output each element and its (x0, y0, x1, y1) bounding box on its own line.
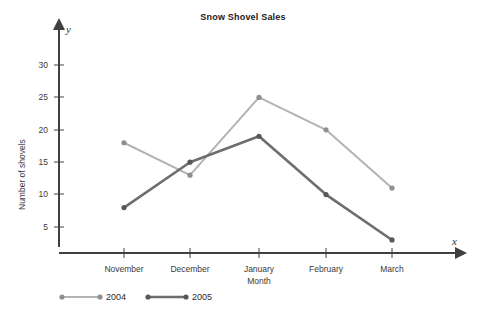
data-point-2005-December[interactable] (187, 160, 192, 165)
x-tick-label-november: November (104, 264, 143, 274)
x-axis-letter: x (451, 235, 457, 247)
data-point-2004-February[interactable] (323, 127, 328, 132)
data-point-2005-January[interactable] (256, 134, 261, 139)
line-chart: y x 30 25 20 15 10 5 Number of shovels (0, 0, 486, 315)
data-point-2005-November[interactable] (121, 205, 126, 210)
x-axis-title: Month (247, 276, 271, 286)
x-tick-label-december: December (170, 264, 209, 274)
data-point-2004-March[interactable] (389, 186, 394, 191)
legend-label-2004: 2004 (106, 292, 126, 302)
y-tick-label: 25 (39, 92, 49, 102)
legend-marker-2005 (145, 294, 150, 299)
y-axis-title: Number of shovels (17, 139, 27, 210)
y-tick-label: 30 (39, 60, 49, 70)
x-tick-label-february: February (309, 264, 344, 274)
data-point-2005-March[interactable] (389, 237, 394, 242)
data-point-2005-February[interactable] (323, 192, 328, 197)
x-tick-label-march: March (380, 264, 404, 274)
y-tick-label: 5 (43, 222, 48, 232)
data-point-2004-December[interactable] (187, 173, 192, 178)
y-axis-letter: y (65, 23, 71, 35)
legend-marker-2004 (97, 294, 102, 299)
data-point-2004-November[interactable] (121, 140, 126, 145)
data-point-2004-January[interactable] (256, 95, 261, 100)
y-tick-group: 30 25 20 15 10 5 (39, 60, 64, 232)
y-tick-label: 20 (39, 125, 49, 135)
x-tick-label-january: January (244, 264, 275, 274)
legend-marker-2004 (59, 294, 64, 299)
y-tick-label: 15 (39, 157, 49, 167)
series-line-2004 (124, 97, 392, 188)
chart-page: Snow Shovel Sales y x 30 25 20 15 10 5 (0, 0, 486, 315)
legend: 2004 2005 (59, 292, 212, 302)
y-tick-label: 10 (39, 189, 49, 199)
legend-marker-2005 (183, 294, 188, 299)
x-tick-group: November December January February March (104, 248, 404, 274)
legend-label-2005: 2005 (192, 292, 212, 302)
series-layer (121, 95, 394, 243)
